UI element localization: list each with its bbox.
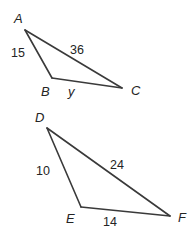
edge-ac (25, 30, 122, 88)
side-label-de: 10 (36, 165, 50, 178)
side-label-bc: y (68, 85, 75, 98)
vertex-label-d: D (35, 111, 44, 124)
edge-ef (81, 207, 170, 216)
geometry-figure: A B C 15 36 y D E F 10 24 14 (0, 0, 196, 239)
edge-bc (52, 78, 122, 88)
triangle-def (47, 128, 170, 216)
side-label-ac: 36 (70, 44, 84, 57)
vertex-label-a: A (14, 12, 23, 25)
vertex-label-f: F (178, 211, 186, 224)
side-label-ab: 15 (11, 47, 25, 60)
triangle-abc (25, 30, 122, 88)
vertex-label-e: E (66, 212, 75, 225)
side-label-ef: 14 (103, 216, 117, 229)
vertex-label-b: B (41, 85, 50, 98)
side-label-df: 24 (110, 159, 124, 172)
triangles-svg (0, 0, 196, 239)
vertex-label-c: C (131, 84, 140, 97)
